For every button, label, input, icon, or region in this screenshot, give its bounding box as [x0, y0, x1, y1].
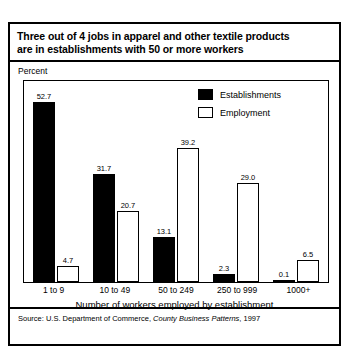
- bar-value-establishments-3: 2.3: [219, 264, 229, 273]
- bar-wrap-establishments-4: 0.1: [273, 81, 295, 282]
- bar-value-establishments-0: 52.7: [37, 92, 52, 101]
- x-axis-label-4: 1000+: [268, 285, 329, 295]
- bar-value-employment-2: 39.2: [181, 138, 196, 147]
- bar-wrap-employment-0: 4.7: [57, 81, 79, 282]
- bar-value-employment-0: 4.7: [63, 256, 73, 265]
- bar-value-employment-3: 29.0: [241, 173, 256, 182]
- bar-value-establishments-4: 0.1: [279, 270, 289, 279]
- bar-value-establishments-1: 31.7: [97, 164, 112, 173]
- bar-value-establishments-2: 13.1: [157, 227, 172, 236]
- bar-group-1-to-9: 52.7 4.7: [26, 81, 86, 282]
- bar-wrap-establishments-0: 52.7: [33, 81, 55, 282]
- bar-employment-4: [297, 260, 319, 282]
- bar-employment-0: [57, 266, 79, 282]
- x-axis-labels: 1 to 9 10 to 49 50 to 249 250 to 999 100…: [23, 285, 329, 295]
- chart-title-line-1: Three out of 4 jobs in apparel and other…: [17, 30, 332, 43]
- bar-group-50-to-249: 13.1 39.2: [146, 81, 206, 282]
- plot-area: 52.7 4.7 31.7: [24, 81, 328, 282]
- bar-establishments-4: [273, 280, 295, 282]
- bar-group-10-to-49: 31.7 20.7: [86, 81, 146, 282]
- bar-wrap-employment-3: 29.0: [237, 81, 259, 282]
- x-axis-label-1: 10 to 49: [84, 285, 145, 295]
- bar-establishments-3: [213, 274, 235, 282]
- bar-employment-2: [177, 148, 199, 282]
- bar-wrap-establishments-2: 13.1: [153, 81, 175, 282]
- source-publication: County Business Patterns: [153, 314, 239, 323]
- bar-establishments-0: [33, 102, 55, 282]
- plot-frame: Establishments Employment 52.7 4.7: [23, 80, 329, 283]
- bar-group-250-to-999: 2.3 29.0: [206, 81, 266, 282]
- chart-title-line-2: are in establishments with 50 or more wo…: [17, 43, 332, 56]
- chart-title: Three out of 4 jobs in apparel and other…: [10, 24, 339, 62]
- chart-body: Percent Establishments Employment 52.7: [10, 62, 339, 327]
- bar-establishments-2: [153, 237, 175, 282]
- bar-wrap-employment-4: 6.5: [297, 81, 319, 282]
- bar-value-employment-1: 20.7: [121, 201, 136, 210]
- source-note: Source: U.S. Department of Commerce, Cou…: [10, 307, 339, 327]
- bar-establishments-1: [93, 174, 115, 282]
- y-axis-unit-label: Percent: [18, 66, 47, 76]
- bar-employment-3: [237, 183, 259, 282]
- bar-groups: 52.7 4.7 31.7: [26, 81, 326, 282]
- bar-wrap-employment-2: 39.2: [177, 81, 199, 282]
- source-suffix: , 1997: [239, 314, 260, 323]
- bar-group-1000-plus: 0.1 6.5: [266, 81, 326, 282]
- x-axis-label-0: 1 to 9: [23, 285, 84, 295]
- bar-value-employment-4: 6.5: [303, 250, 313, 259]
- bar-wrap-establishments-1: 31.7: [93, 81, 115, 282]
- x-axis-label-3: 250 to 999: [207, 285, 268, 295]
- bar-employment-1: [117, 211, 139, 282]
- source-prefix: Source: U.S. Department of Commerce,: [18, 314, 153, 323]
- x-axis-label-2: 50 to 249: [145, 285, 206, 295]
- bar-wrap-employment-1: 20.7: [117, 81, 139, 282]
- bar-wrap-establishments-3: 2.3: [213, 81, 235, 282]
- chart-card: Three out of 4 jobs in apparel and other…: [8, 22, 341, 346]
